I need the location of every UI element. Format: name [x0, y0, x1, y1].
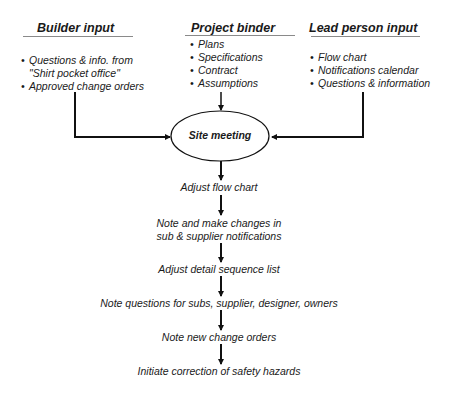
list-item: Plans: [190, 38, 263, 51]
project-binder-header: Project binder: [191, 21, 275, 35]
list-item: Specifications: [190, 51, 263, 64]
lead-person-input-rule: [311, 36, 420, 37]
list-item: Approved change orders: [21, 80, 144, 93]
site-meeting-node: Site meeting: [170, 129, 270, 141]
step-initiate-safety-correction: Initiate correction of safety hazards: [0, 365, 445, 378]
list-item: Notifications calendar: [310, 64, 430, 77]
step-note-changes-line2: sub & supplier notifications: [0, 230, 445, 243]
builder-input-header: Builder input: [37, 21, 114, 35]
list-item: Questions & information: [310, 77, 430, 90]
lead-person-input-header: Lead person input: [309, 21, 417, 35]
step-note-change-orders: Note new change orders: [0, 331, 445, 344]
step-adjust-detail-sequence: Adjust detail sequence list: [0, 263, 445, 276]
step-adjust-flow-chart: Adjust flow chart: [0, 181, 445, 194]
list-item: Contract: [190, 64, 263, 77]
project-binder-list: Plans Specifications Contract Assumption…: [190, 38, 263, 90]
builder-input-rule: [23, 36, 133, 37]
project-binder-rule: [185, 35, 295, 36]
lead-person-input-list: Flow chart Notifications calendar Questi…: [310, 51, 430, 90]
step-note-changes-line1: Note and make changes in: [0, 217, 445, 230]
list-item: Questions & info. from "Shirt pocket off…: [21, 54, 144, 80]
list-item: Assumptions: [190, 77, 263, 90]
list-item: Flow chart: [310, 51, 430, 64]
builder-input-list: Questions & info. from "Shirt pocket off…: [21, 54, 144, 93]
step-note-questions: Note questions for subs, supplier, desig…: [0, 297, 445, 310]
